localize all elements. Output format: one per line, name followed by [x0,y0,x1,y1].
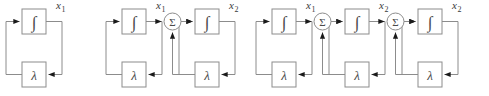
feedback-up-wire [329,22,345,75]
diagram-3-stage-2: ∫λx2Σ [296,0,388,87]
feedback-up-wire [106,22,122,75]
output-subscript: 2 [384,5,388,14]
feedback-down-wire [442,22,458,75]
feedback-down-wire [146,22,162,75]
summer-symbol: Σ [169,16,175,28]
diagram-3-stage-1: ∫λx1 [256,0,315,87]
output-label: x1 [55,0,65,14]
diagram-1: ∫λx1 [6,0,65,87]
output-label: x1 [305,0,315,14]
feedback-up-wire [179,22,195,75]
output-subscript: 1 [161,5,165,14]
diagram-2-stage-2: ∫λx2Σ [146,0,238,87]
diagram-2: ∫λx1∫λx2Σ [106,0,238,87]
summer-symbol: Σ [392,16,398,28]
gain-symbol: λ [353,68,360,83]
feedback-up-wire [256,22,272,75]
output-subscript: 1 [311,5,315,14]
summer-symbol: Σ [319,16,325,28]
feedback-down-wire [46,22,62,75]
feedback-down-wire [296,22,312,75]
gain-symbol: λ [426,68,433,83]
gain-symbol: λ [30,68,37,83]
block-diagram-figure: ∫λx1∫λx1∫λx2Σ∫λx1∫λx2Σ∫λx2Σ [0,0,489,96]
output-subscript: 2 [457,5,461,14]
gain-symbol: λ [130,68,137,83]
output-label: x2 [451,0,461,14]
gain-symbol: λ [280,68,287,83]
output-subscript: 2 [234,5,238,14]
figure-canvas: ∫λx1∫λx1∫λx2Σ∫λx1∫λx2Σ∫λx2Σ [0,0,489,96]
output-subscript: 1 [61,5,65,14]
gain-symbol: λ [203,68,210,83]
diagram-3: ∫λx1∫λx2Σ∫λx2Σ [256,0,461,87]
diagram-3-stage-3: ∫λx2Σ [369,0,461,87]
output-label: x2 [378,0,388,14]
feedback-up-wire [402,22,418,75]
feedback-down-wire [219,22,235,75]
output-label: x2 [228,0,238,14]
summer-feed-wire [396,33,403,75]
summer-feed-wire [173,33,180,75]
diagram-1-stage-1: ∫λx1 [6,0,65,87]
output-label: x1 [155,0,165,14]
feedback-up-wire [6,22,22,75]
summer-feed-wire [323,33,330,75]
diagram-2-stage-1: ∫λx1 [106,0,165,87]
feedback-down-wire [369,22,385,75]
